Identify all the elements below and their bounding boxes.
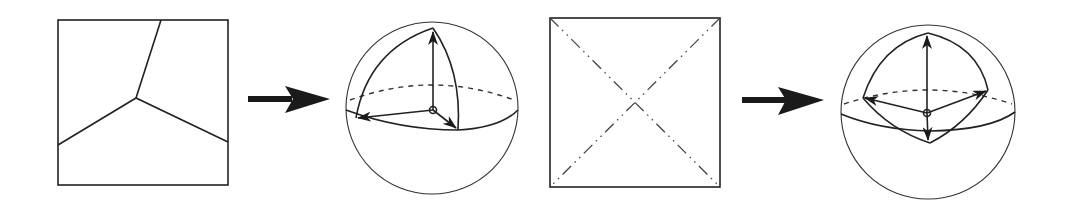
square-diagonals — [550, 18, 720, 187]
square-outline — [58, 20, 228, 185]
arc-right — [433, 28, 458, 130]
equator-back — [350, 85, 514, 100]
sphere-tetrahedral — [841, 25, 1015, 199]
arc-top-left — [863, 33, 928, 98]
arc-bottom-right — [930, 90, 988, 143]
vector-left — [358, 110, 433, 118]
arrow-right-icon — [742, 87, 824, 115]
diagram-canvas — [0, 0, 1069, 210]
arrow-right-icon — [248, 86, 330, 113]
arc-bottom-left — [863, 98, 930, 143]
arc-left — [356, 28, 433, 118]
partition-edge-top — [136, 20, 161, 98]
square-three-regions — [58, 20, 228, 185]
sphere-outline — [346, 22, 518, 194]
sphere-octant — [346, 22, 518, 194]
partition-edges-bottom — [58, 98, 228, 145]
vector-front — [433, 110, 456, 128]
vector-right — [927, 91, 986, 113]
